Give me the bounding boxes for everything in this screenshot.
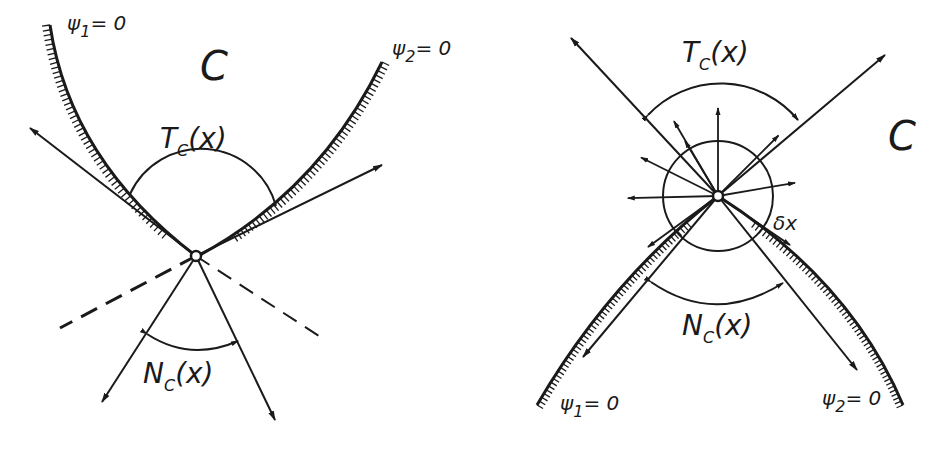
hatch-mark	[565, 360, 571, 364]
hatch-mark	[91, 153, 98, 157]
hatch-mark	[112, 180, 118, 185]
hatch-mark	[629, 279, 634, 284]
left-dashed-line-1	[60, 256, 196, 328]
hatch-mark	[263, 213, 268, 219]
right-hatching-psi1	[537, 222, 691, 408]
right-normal-cone-label: NC(x)	[682, 309, 753, 347]
hatch-mark	[344, 127, 351, 132]
hatch-mark	[558, 371, 564, 375]
hatch-mark	[845, 315, 851, 319]
hatch-mark	[369, 87, 376, 91]
left-normal-cone-arc	[147, 334, 238, 350]
hatch-mark	[303, 176, 309, 182]
hatch-mark	[359, 104, 366, 108]
left-normal-arrow-2	[196, 256, 275, 420]
hatch-mark	[790, 254, 795, 259]
hatch-mark	[294, 186, 300, 192]
hatch-mark	[309, 170, 315, 175]
hatch-mark	[100, 165, 107, 170]
hatch-mark	[635, 272, 640, 277]
hatch-mark	[882, 375, 888, 378]
hatch-mark	[780, 245, 785, 250]
left-hatching-psi1	[42, 25, 167, 238]
hatch-mark	[354, 112, 361, 116]
hatch-mark	[327, 149, 333, 154]
hatch-mark	[658, 248, 663, 253]
hatch-mark	[551, 382, 557, 386]
hatch-mark	[755, 225, 759, 231]
right-panel: TC(x) C δx NC(x) ψ1= 0 ψ2= 0	[537, 36, 916, 421]
hatch-mark	[847, 318, 853, 322]
hatch-mark	[72, 119, 79, 123]
hatch-mark	[826, 291, 831, 296]
hatch-mark	[812, 275, 817, 280]
hatch-mark	[62, 98, 69, 101]
hatch-mark	[362, 100, 369, 104]
hatch-mark	[609, 301, 614, 305]
hatch-mark	[879, 367, 885, 370]
right-psi2-label: ψ2= 0	[822, 386, 881, 416]
hatch-mark	[802, 266, 807, 271]
hatch-mark	[799, 263, 804, 268]
hatch-mark	[330, 145, 336, 150]
hatch-mark	[89, 149, 96, 153]
hatch-mark	[287, 192, 292, 198]
hatch-mark	[671, 236, 676, 241]
hatch-mark	[338, 135, 344, 140]
hatch-mark	[601, 311, 606, 315]
hatch-mark	[840, 308, 845, 312]
hatch-mark	[655, 251, 660, 256]
hatch-mark	[773, 239, 777, 244]
right-tangent-cone-arc	[648, 84, 798, 120]
hatch-mark	[783, 248, 788, 253]
hatch-mark	[864, 342, 870, 346]
hatch-mark	[284, 195, 289, 201]
right-psi1-label: ψ1= 0	[560, 391, 619, 421]
hatch-mark	[373, 79, 380, 83]
hatch-mark	[59, 89, 67, 92]
left-point-x	[191, 251, 201, 261]
hatch-mark	[259, 216, 264, 222]
hatch-mark	[270, 207, 275, 213]
hatch-mark	[834, 301, 839, 305]
hatch-mark	[686, 222, 691, 227]
hatch-mark	[297, 183, 303, 189]
left-normal-cone-label: NC(x)	[143, 357, 214, 395]
hatch-mark	[380, 66, 387, 70]
hatch-mark	[588, 328, 594, 332]
hatch-mark	[805, 269, 810, 274]
hatch-mark	[604, 308, 609, 312]
hatch-mark	[875, 360, 881, 363]
hatch-mark	[66, 107, 73, 110]
hatch-mark	[290, 189, 296, 195]
hatch-mark	[884, 378, 890, 381]
hatch-mark	[300, 180, 306, 186]
right-point-x	[713, 191, 723, 201]
hatch-mark	[115, 184, 121, 189]
hatch-mark	[591, 325, 597, 329]
left-hatching-psi2	[233, 62, 389, 241]
hatch-mark	[599, 315, 604, 319]
hatch-mark	[668, 239, 673, 244]
hatch-mark	[850, 321, 856, 325]
hatch-mark	[573, 349, 579, 353]
hatch-mark	[68, 111, 75, 114]
hatch-mark	[568, 356, 574, 360]
hatch-mark	[382, 62, 389, 65]
hatch-mark	[86, 144, 93, 148]
hatch-mark	[837, 304, 842, 308]
hatch-mark	[378, 71, 385, 75]
hatch-mark	[280, 198, 285, 204]
hatch-mark	[376, 75, 383, 79]
hatch-mark	[776, 242, 781, 247]
hatch-mark	[277, 202, 282, 208]
hatch-mark	[752, 222, 756, 228]
hatch-mark	[94, 157, 101, 161]
hatch-mark	[652, 254, 657, 259]
right-set-label: C	[888, 113, 916, 159]
hatch-mark	[585, 332, 591, 336]
hatch-mark	[897, 405, 903, 408]
hatch-mark	[857, 332, 863, 336]
hatch-mark	[872, 356, 878, 360]
hatch-mark	[357, 108, 364, 112]
